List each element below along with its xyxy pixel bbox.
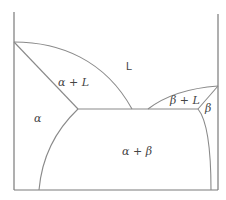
- region-label-alpha-plus-liquid: α + L: [58, 76, 89, 89]
- region-label-liquid: L: [126, 60, 132, 72]
- solvus-alpha-curve: [39, 109, 78, 190]
- phase-diagram: L α + L β + L α β α + β: [0, 0, 226, 200]
- region-label-alpha: α: [34, 112, 42, 125]
- region-label-beta-plus-liquid: β + L: [169, 94, 200, 107]
- region-label-beta: β: [204, 102, 211, 115]
- region-label-alpha-plus-beta: α + β: [122, 145, 152, 158]
- solvus-beta-curve: [198, 109, 211, 190]
